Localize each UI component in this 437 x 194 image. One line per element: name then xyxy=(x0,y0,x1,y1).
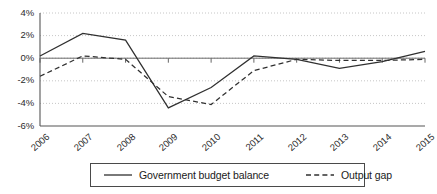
legend-dashed-line-icon xyxy=(306,170,334,180)
y-tick-label: 2% xyxy=(0,29,34,40)
y-tick-label: 4% xyxy=(0,7,34,18)
legend-item-output-gap: Output gap xyxy=(306,164,392,186)
y-tick-label: -2% xyxy=(0,74,34,85)
series-line-government-budget-balance xyxy=(40,33,425,108)
legend-solid-line-icon xyxy=(104,170,132,180)
series-line-output-gap xyxy=(40,56,425,105)
chart-container: 4%2%0%-2%-4%-6% 200620072008200920102011… xyxy=(0,0,437,194)
y-tick-label: -4% xyxy=(0,97,34,108)
x-tick-marks-group xyxy=(40,58,425,63)
chart-legend: Government budget balance Output gap xyxy=(90,163,365,187)
legend-label-output-gap: Output gap xyxy=(341,169,392,181)
y-tick-label: 0% xyxy=(0,52,34,63)
legend-item-government-budget-balance: Government budget balance xyxy=(104,164,269,186)
y-tick-label: -6% xyxy=(0,120,34,131)
legend-label-government-budget-balance: Government budget balance xyxy=(139,169,269,181)
